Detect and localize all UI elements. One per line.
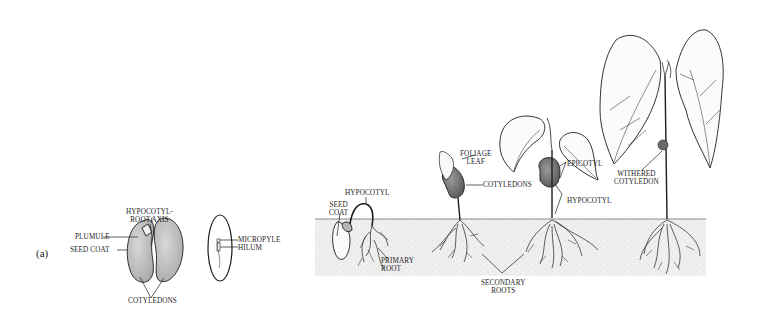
label-line: WITHERED <box>614 170 659 178</box>
label-line: SEED <box>329 201 348 209</box>
stage3-cotyledons <box>539 158 560 187</box>
seed-section-drawing <box>127 218 183 282</box>
soil-strip <box>315 219 706 276</box>
label-withered-cotyledon: WITHERED COTYLEDON <box>614 170 659 186</box>
label-line: HYPOCOTYL- <box>126 208 173 216</box>
label-line: LEAF <box>460 158 491 166</box>
label-line: FOLIAGE <box>460 150 491 158</box>
label-line: COAT <box>329 209 348 217</box>
bean-germination-illustration <box>0 0 759 317</box>
label-hilum: HILUM <box>238 244 262 252</box>
label-hypocotyl-stage1: HYPOCOTYL <box>345 189 389 197</box>
right-cotyledon <box>154 218 183 282</box>
label-hypocotyl-stage3: HYPOCOTYL <box>567 197 611 205</box>
label-micropyle: MICROPYLE <box>238 236 280 244</box>
stage3-left-leaf <box>500 116 545 172</box>
label-epicotyl: EPICOTYL <box>567 160 603 168</box>
label-plumule: PLUMULE <box>75 233 110 241</box>
label-seed-coat: SEED COAT <box>70 246 109 254</box>
label-hypocotyl-root-axis: HYPOCOTYL- ROOT AXIS <box>126 208 173 224</box>
label-secondary-roots: SECONDARY ROOTS <box>481 279 525 295</box>
stage4-left-leaf <box>600 35 661 164</box>
label-line: ROOT AXIS <box>126 216 173 224</box>
label-line: SECONDARY <box>481 279 525 287</box>
label-line: ROOT <box>381 265 414 273</box>
label-primary-root: PRIMARY ROOT <box>381 257 414 273</box>
panel-label: (a) <box>36 247 48 259</box>
stage4-right-leaf <box>676 30 723 168</box>
label-foliage-leaf: FOLIAGE LEAF <box>460 150 491 166</box>
label-seed-coat-stage1: SEED COAT <box>329 201 348 217</box>
label-line: COTYLEDON <box>614 178 659 186</box>
stage3-right-leaf <box>559 133 598 181</box>
stage4-leader-lines <box>642 151 662 170</box>
label-cotyledons-seed: COTYLEDONS <box>128 297 177 305</box>
label-line: ROOTS <box>481 287 525 295</box>
stage4-withered-cotyledon <box>658 140 668 150</box>
seed-side-view-drawing <box>208 215 238 281</box>
label-cotyledons-stage2: COTYLEDONS <box>483 181 532 189</box>
label-line: PRIMARY <box>381 257 414 265</box>
